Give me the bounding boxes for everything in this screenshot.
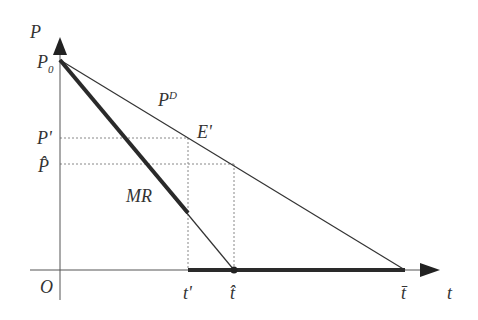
demand-curve xyxy=(60,60,405,270)
origin-label: O xyxy=(40,277,53,297)
t-prime-label: t' xyxy=(183,283,193,303)
x-axis-arrow-icon xyxy=(420,263,440,277)
p-hat-label: P̂ xyxy=(37,156,49,176)
equilibrium-label: E' xyxy=(196,122,213,142)
t-bar-label: t̄ xyxy=(401,283,408,303)
p0-label: P0 xyxy=(36,52,54,75)
mr-label: MR xyxy=(125,186,152,206)
t-hat-label: t̂ xyxy=(230,283,236,303)
x-axis-label: t xyxy=(447,283,453,303)
mr-curve-thick xyxy=(60,60,188,213)
demand-label: PD xyxy=(157,89,177,110)
diagram-canvas: P P0 P' P̂ PD E' MR O t' t̂ t̄ t xyxy=(0,0,478,320)
t-hat-point xyxy=(231,267,238,274)
y-axis-arrow-icon xyxy=(53,37,67,55)
y-axis-label: P xyxy=(29,22,41,42)
axes xyxy=(30,37,440,300)
p-prime-label: P' xyxy=(36,128,53,148)
